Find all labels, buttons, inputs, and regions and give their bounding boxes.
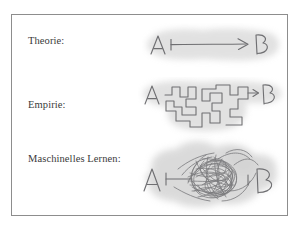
figure-frame: Theorie: — [11, 14, 288, 216]
straight-arrow-sketch — [142, 23, 287, 69]
figure-row-theorie: Theorie: — [12, 23, 287, 85]
scribble-tangle-sketch — [130, 135, 288, 215]
row-label-maschinelles-lernen: Maschinelles Lernen: — [28, 153, 121, 164]
figure-page: Theorie: — [0, 0, 299, 231]
maze-path-sketch — [138, 77, 288, 139]
row-label-empirie: Empirie: — [28, 99, 66, 110]
figure-row-empirie: Empirie: — [12, 77, 287, 139]
figure-row-maschinelles-lernen: Maschinelles Lernen: — [12, 135, 287, 197]
row-label-theorie: Theorie: — [28, 35, 64, 46]
